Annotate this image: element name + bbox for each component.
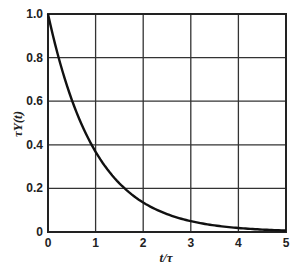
grid-lines	[48, 14, 286, 232]
y-tick-label: 0.2	[26, 181, 43, 195]
y-axis-label: τY(t)	[10, 111, 25, 137]
x-tick-label: 4	[235, 236, 242, 250]
x-tick-label: 1	[92, 236, 99, 250]
x-tick-labels: 012345	[45, 236, 290, 250]
y-tick-label: 0.4	[26, 138, 43, 152]
decay-chart: 00.20.40.60.81.0 012345 t/τ τY(t)	[0, 0, 299, 270]
y-tick-label: 0.6	[26, 94, 43, 108]
x-tick-label: 0	[45, 236, 52, 250]
x-tick-label: 2	[140, 236, 147, 250]
y-tick-label: 0.8	[26, 51, 43, 65]
y-tick-label: 1.0	[26, 7, 43, 21]
x-tick-label: 5	[283, 236, 290, 250]
y-tick-labels: 00.20.40.60.81.0	[26, 7, 43, 239]
x-axis-label: t/τ	[160, 250, 174, 265]
x-tick-label: 3	[187, 236, 194, 250]
decay-curve	[48, 14, 286, 231]
y-tick-label: 0	[36, 225, 43, 239]
plot-frame	[48, 14, 286, 232]
